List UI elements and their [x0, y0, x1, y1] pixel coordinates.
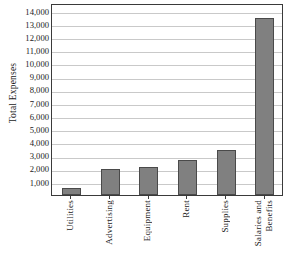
bar[interactable] [62, 188, 81, 195]
x-axis-category-label: Utilities [65, 200, 76, 270]
x-axis-category-label-line: Equipment [142, 200, 153, 241]
y-axis-tick-label: 12,000 [10, 34, 49, 43]
x-axis-tick [264, 196, 265, 199]
y-axis-tick-labels: 1,0002,0003,0004,0005,0006,0007,0008,000… [10, 4, 49, 196]
x-axis-category-label-line: Utilities [65, 200, 76, 231]
x-axis-category-label: Advertising [104, 200, 115, 270]
x-axis-category-label-line: Advertising [104, 200, 115, 245]
y-axis-tick-label: 5,000 [10, 126, 49, 135]
bar[interactable] [217, 150, 236, 195]
x-axis-category-label: Salaries andBenefits [253, 200, 275, 270]
bar[interactable] [101, 169, 120, 195]
y-axis-tick-label: 7,000 [10, 100, 49, 109]
y-axis-tick-label: 11,000 [10, 47, 49, 56]
bar[interactable] [139, 167, 158, 195]
x-axis-category-label-line: Benefits [264, 200, 275, 232]
y-axis-tick-label: 4,000 [10, 139, 49, 148]
x-axis-tick [70, 196, 71, 199]
x-axis-category-labels: UtilitiesAdvertisingEquipmentRentSupplie… [51, 200, 283, 270]
bar-chart: Total Expenses 1,0002,0003,0004,0005,000… [0, 0, 285, 270]
bars-layer [52, 5, 282, 195]
x-axis-tick [148, 196, 149, 199]
y-axis-tick-label: 2,000 [10, 165, 49, 174]
x-axis-category-label-line: Rent [181, 200, 192, 218]
y-axis-tick-label: 10,000 [10, 60, 49, 69]
y-axis-tick-label: 6,000 [10, 113, 49, 122]
y-axis-tick-label: 3,000 [10, 152, 49, 161]
y-axis-tick-label: 13,000 [10, 21, 49, 30]
plot-area [51, 4, 283, 196]
x-axis-tick [109, 196, 110, 199]
y-axis-tick-label: 1,000 [10, 179, 49, 188]
x-axis-category-label: Supplies [220, 200, 231, 270]
bar[interactable] [178, 160, 197, 195]
bar[interactable] [255, 18, 274, 195]
y-axis-tick-label: 8,000 [10, 86, 49, 95]
x-axis-category-label-line: Salaries and [253, 200, 264, 246]
y-axis-tick-label: 9,000 [10, 73, 49, 82]
x-axis-category-label-line: Supplies [220, 200, 231, 233]
x-axis-category-label: Equipment [142, 200, 153, 270]
x-axis-category-label: Rent [181, 200, 192, 270]
x-axis-tick [186, 196, 187, 199]
y-axis-tick-label: 14,000 [10, 8, 49, 17]
x-axis-tick [225, 196, 226, 199]
